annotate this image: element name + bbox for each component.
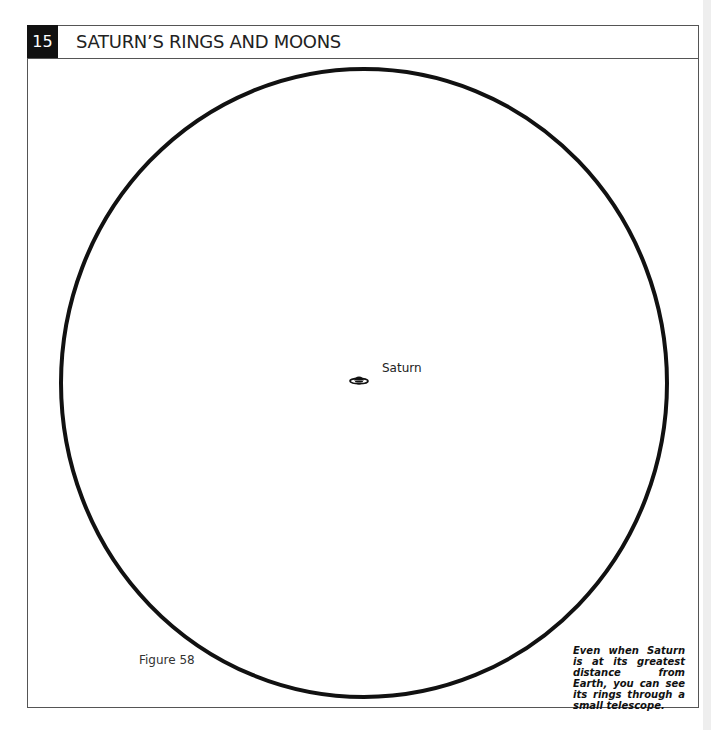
saturn-label: Saturn — [382, 361, 422, 375]
figure-caption: Even when Saturn is at its greatest dist… — [573, 645, 685, 711]
figure-illustration — [0, 0, 711, 730]
figure-label: Figure 58 — [139, 653, 195, 667]
saturn-icon — [350, 377, 368, 385]
